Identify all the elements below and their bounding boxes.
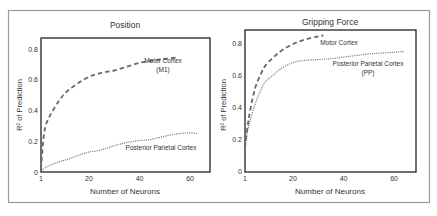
series-line-dashed (245, 36, 323, 148)
y-tick-label: 0.4 (28, 107, 38, 114)
svg-text:Motor Cortex: Motor Cortex (144, 57, 182, 64)
y-tick-label: 0.2 (232, 136, 242, 143)
x-tick-labels: 1204060 (39, 175, 194, 182)
chart-title: Position (110, 20, 141, 30)
x-axis-label: Number of Neurons (295, 187, 365, 196)
y-tick-labels: 00.20.40.60.8 (232, 40, 242, 175)
x-tick-label: 20 (289, 175, 297, 182)
x-axis-label: Number of Neurons (90, 187, 160, 196)
svg-text:Posterior Parietal Cortex: Posterior Parietal Cortex (126, 144, 198, 151)
plot-frame (41, 38, 210, 172)
svg-text:(M1): (M1) (156, 66, 169, 74)
y-tick-label: 0.6 (28, 76, 38, 83)
y-tick-label: 0.2 (28, 138, 38, 145)
y-axis-label: R² of Prediction (219, 79, 228, 131)
y-tick-label: 0 (34, 169, 38, 176)
x-tick-label: 20 (85, 175, 93, 182)
y-tick-label: 0.8 (28, 46, 38, 53)
y-tick-label: 0.4 (232, 104, 242, 111)
figure: Position 00.20.40.60.8 1204060 Number of… (0, 0, 437, 216)
x-tick-label: 40 (136, 175, 144, 182)
x-tick-label: 60 (186, 175, 194, 182)
y-axis-label: R² of Prediction (15, 79, 24, 131)
svg-text:Motor Cortex: Motor Cortex (320, 39, 358, 46)
plot-frame (245, 30, 416, 172)
series-label-motor-cortex: Motor Cortex (M1) (144, 57, 182, 74)
svg-text:(PP): (PP) (362, 69, 375, 77)
chart-canvas: Position 00.20.40.60.8 1204060 Number of… (0, 0, 437, 216)
panel-gripping-force: Gripping Force 00.20.40.60.8 1204060 Num… (219, 17, 416, 196)
x-tick-label: 1 (243, 175, 247, 182)
y-tick-label: 0.8 (232, 40, 242, 47)
x-tick-labels: 1204060 (243, 175, 398, 182)
y-tick-label: 0.6 (232, 72, 242, 79)
x-tick-label: 60 (390, 175, 398, 182)
series-label-motor-cortex: Motor Cortex (320, 39, 358, 46)
x-tick-label: 40 (340, 175, 348, 182)
chart-title: Gripping Force (302, 17, 358, 27)
series-line-dashed (41, 58, 177, 169)
data-series (41, 58, 198, 171)
x-tick-label: 1 (39, 175, 43, 182)
panel-position: Position 00.20.40.60.8 1204060 Number of… (15, 20, 210, 196)
y-tick-labels: 00.20.40.60.8 (28, 46, 38, 176)
y-tick-label: 0 (238, 168, 242, 175)
svg-text:Posterior Parietal Cortex: Posterior Parietal Cortex (333, 60, 405, 67)
series-label-posterior-parietal: Posterior Parietal Cortex (PP) (333, 60, 405, 77)
data-series (245, 36, 404, 148)
series-line-dotted (41, 133, 198, 171)
series-label-posterior-parietal: Posterior Parietal Cortex (126, 144, 198, 151)
